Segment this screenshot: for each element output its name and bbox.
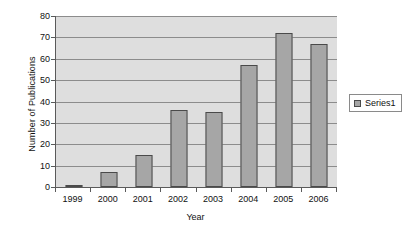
- bar-slot: [232, 16, 267, 187]
- legend: Series1: [349, 94, 402, 112]
- x-axis-title: Year: [55, 212, 336, 222]
- x-axis-tick-label: 2001: [133, 194, 153, 204]
- y-axis-tick-label: 10: [22, 161, 50, 171]
- x-axis-tick-label: 1999: [63, 194, 83, 204]
- bar[interactable]: [311, 44, 328, 187]
- x-axis-tick-label: 2006: [308, 194, 328, 204]
- bar[interactable]: [135, 155, 152, 187]
- x-axis-tick: [90, 188, 91, 192]
- x-axis-tick: [301, 188, 302, 192]
- x-axis-tick: [160, 188, 161, 192]
- x-axis-tick: [266, 188, 267, 192]
- bar-slot: [56, 16, 91, 187]
- x-axis-tick: [196, 188, 197, 192]
- plot-area: [55, 16, 337, 188]
- x-axis-tick: [125, 188, 126, 192]
- bar-slot: [267, 16, 302, 187]
- y-axis-tick-label: 60: [22, 54, 50, 64]
- bar-slot: [197, 16, 232, 187]
- bar-slot: [161, 16, 196, 187]
- legend-entry-label: Series1: [365, 98, 396, 108]
- y-axis-tick-label: 20: [22, 139, 50, 149]
- bar-slot: [91, 16, 126, 187]
- y-axis-tick-labels: 01020304050607080: [22, 11, 50, 186]
- x-axis-tick: [55, 188, 56, 192]
- x-axis-tick: [336, 188, 337, 192]
- y-axis-tick-label: 0: [22, 182, 50, 192]
- y-axis-tick-label: 30: [22, 118, 50, 128]
- x-axis-tick-label: 2005: [273, 194, 293, 204]
- x-axis-ticks: [55, 188, 337, 193]
- bar[interactable]: [241, 65, 258, 187]
- bar-slot: [302, 16, 337, 187]
- y-axis-tick-label: 50: [22, 75, 50, 85]
- x-axis-tick-labels: 19992000200120022003200420052006: [55, 194, 336, 208]
- bar[interactable]: [206, 112, 223, 187]
- y-axis-tick-label: 80: [22, 11, 50, 21]
- y-axis-tick-label: 70: [22, 32, 50, 42]
- x-axis-tick-label: 2002: [168, 194, 188, 204]
- bar[interactable]: [65, 185, 82, 187]
- x-axis-tick-label: 2003: [203, 194, 223, 204]
- bar-slot: [126, 16, 161, 187]
- bar-chart: Number of Publications 01020304050607080…: [0, 0, 415, 235]
- x-axis-tick-label: 2004: [238, 194, 258, 204]
- x-axis-tick-label: 2000: [98, 194, 118, 204]
- x-axis-tick: [231, 188, 232, 192]
- bars-layer: [56, 16, 337, 187]
- legend-swatch-icon: [354, 100, 361, 107]
- bar[interactable]: [170, 110, 187, 187]
- y-axis-tick-label: 40: [22, 97, 50, 107]
- bar[interactable]: [100, 172, 117, 187]
- bar[interactable]: [276, 33, 293, 187]
